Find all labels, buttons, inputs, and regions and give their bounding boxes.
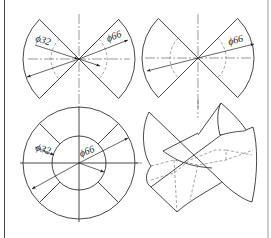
dim-label-d32: ϕ32 xyxy=(34,141,52,156)
technical-drawing: ϕ32 ϕ66 ϕ66 ϕ32 ϕ66 xyxy=(0,0,271,238)
dim-label-d32: ϕ32 xyxy=(34,32,52,47)
view-top-left: ϕ32 ϕ66 xyxy=(23,14,135,108)
dim-label-d66: ϕ66 xyxy=(78,143,96,159)
view-top-right: ϕ66 xyxy=(142,14,254,108)
dim-label-d66: ϕ66 xyxy=(227,33,244,47)
view-bottom-left: ϕ32 ϕ66 xyxy=(20,107,138,222)
view-bottom-right xyxy=(136,100,257,212)
